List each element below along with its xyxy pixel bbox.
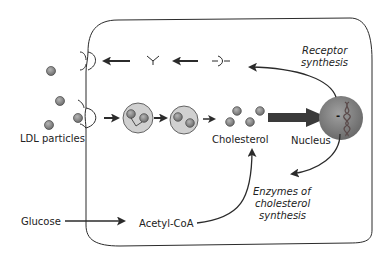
coated-pit-top [88, 52, 96, 70]
glucose-label: Glucose [21, 216, 61, 227]
cholesterol-molecule [256, 107, 265, 116]
receptor-icon-1 [147, 56, 159, 65]
cholesterol-molecule [233, 107, 242, 116]
acetyl-coa-label: Acetyl-CoA [139, 218, 193, 229]
cholesterol-regulation-diagram: LDL particles Cholesterol Nucleus - Rece… [0, 0, 389, 256]
nucleus [319, 96, 363, 140]
receptor-synthesis-arrow [250, 67, 336, 97]
coated-pit-bottom [86, 108, 96, 128]
ldl-particle-bound [74, 114, 83, 123]
enzymes-label-1: Enzymes of [253, 186, 311, 197]
acetylcoa-to-cholesterol-arrow [197, 150, 252, 223]
nucleus-label: Nucleus [291, 135, 331, 146]
nucleus-inhibition-sign: - [336, 110, 340, 121]
receptor-synthesis-label-2: synthesis [301, 57, 348, 68]
enzymes-label-2: cholesterol [255, 198, 310, 209]
cholesterol-label: Cholesterol [212, 134, 268, 145]
ldl-particles-label: LDL particles [20, 133, 85, 144]
ldl-particle [47, 67, 56, 76]
cholesterol-molecule [246, 118, 255, 127]
inhibition-arrow-shaft [268, 113, 308, 122]
lysosome-vesicle [170, 106, 198, 134]
ldl-particle [56, 97, 65, 106]
enzymes-label-3: synthesis [259, 210, 306, 221]
cholesterol-molecule [226, 118, 235, 127]
receptor-synthesis-label-1: Receptor [302, 45, 347, 56]
ldl-particle [45, 121, 54, 130]
receptor-icon-2 [212, 56, 230, 66]
